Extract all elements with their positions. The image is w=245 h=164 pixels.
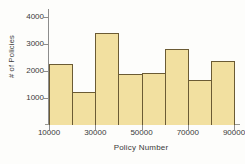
y-tick-label: 1000 bbox=[14, 94, 44, 102]
x-tick-label: 50000 bbox=[120, 128, 164, 137]
y-tick-mark bbox=[43, 44, 49, 45]
x-tick-label: 30000 bbox=[73, 128, 117, 137]
bar bbox=[211, 61, 235, 125]
x-tick-label: 90000 bbox=[212, 128, 245, 137]
y-axis-tick-labels: 1000200030004000 bbox=[12, 0, 44, 164]
x-axis-tick-labels: 1000030000500007000090000 bbox=[48, 128, 244, 140]
y-tick-label: 3000 bbox=[14, 40, 44, 48]
y-tick-label: 4000 bbox=[14, 13, 44, 21]
bar bbox=[118, 74, 142, 125]
bar-series bbox=[49, 9, 234, 125]
bar bbox=[95, 33, 119, 125]
bar bbox=[142, 73, 166, 125]
bar bbox=[188, 80, 212, 125]
bar bbox=[49, 64, 73, 126]
y-tick-mark bbox=[43, 98, 49, 99]
x-tick-label: 70000 bbox=[166, 128, 210, 137]
y-tick-label: 2000 bbox=[14, 67, 44, 75]
bar bbox=[165, 49, 189, 125]
y-tick-mark bbox=[43, 71, 49, 72]
x-tick-label: 10000 bbox=[27, 128, 71, 137]
bar bbox=[72, 92, 96, 125]
x-axis-title: Policy Number bbox=[48, 143, 234, 152]
histogram-chart: # of Policies 1000200030004000 100003000… bbox=[0, 0, 245, 164]
plot-area bbox=[48, 9, 234, 125]
y-tick-mark bbox=[43, 17, 49, 18]
